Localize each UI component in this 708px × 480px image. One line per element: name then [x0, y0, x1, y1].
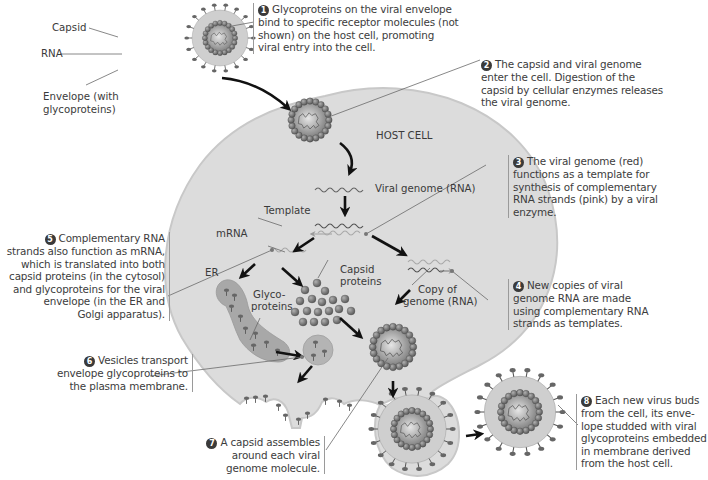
step-number-badge: 1: [258, 5, 269, 16]
step-2-caption: 2The capsid and viral genome enter the c…: [481, 58, 701, 109]
caption-line: A capsid assembles: [220, 436, 320, 448]
caption-line: enter the cell. Digestion of the: [481, 71, 635, 83]
caption-line: using complementary RNA: [513, 305, 648, 317]
step-1-caption: 1Glycoproteins on the viral envelope bin…: [253, 3, 478, 54]
caption-line: shown) on the host cell, promoting: [258, 29, 434, 41]
caption-line: from the host cell.: [581, 457, 673, 469]
capsid-proteins-label-1: Capsid: [340, 264, 374, 276]
rna-label: RNA: [41, 48, 63, 60]
caption-line: the viral genome.: [481, 96, 570, 108]
step-number-badge: 4: [513, 281, 524, 292]
step-number-badge: 8: [581, 396, 592, 407]
caption-line: RNA strands (pink) by a viral: [513, 193, 658, 205]
capsid-label: Capsid: [52, 22, 86, 34]
caption-line: the plasma membrane.: [69, 380, 188, 392]
caption-line: capsid proteins (in the cytosol): [9, 270, 165, 282]
caption-line: envelope glycoproteins to: [57, 367, 188, 379]
caption-line: genome RNA are made: [513, 292, 631, 304]
caption-line: bind to specific receptor molecules (not: [258, 16, 459, 28]
step-number-badge: 6: [84, 356, 95, 367]
step-7-caption: 7A capsid assembles around each viral ge…: [200, 436, 325, 474]
vesicle: [303, 335, 333, 365]
host-cell-label: HOST CELL: [376, 130, 433, 142]
er-label: ER: [205, 267, 219, 279]
caption-line: synthesis of complementary: [513, 181, 657, 193]
caption-line: The capsid and viral genome: [495, 58, 642, 70]
viral-genome-label: Viral genome (RNA): [375, 183, 476, 195]
caption-line: which is translated into both: [21, 258, 165, 270]
glycoproteins-label-1: Glyco-: [253, 289, 285, 301]
caption-line: lope studded with viral: [581, 420, 697, 432]
caption-line: Vesicles transport: [98, 354, 188, 366]
step-number-badge: 7: [206, 438, 217, 449]
glycoproteins-label-2: proteins: [251, 301, 293, 313]
caption-line: functions as a template for: [513, 168, 649, 180]
caption-line: and glycoproteins for the viral: [13, 283, 165, 295]
caption-line: Glycoproteins on the viral envelope: [272, 3, 452, 15]
caption-line: Complementary RNA: [59, 232, 165, 244]
caption-line: glycoproteins embedded: [581, 432, 707, 444]
template-label: Template: [264, 205, 310, 217]
caption-line: genome molecule.: [226, 462, 320, 474]
virion-released: [474, 368, 565, 456]
step-number-badge: 5: [45, 234, 56, 245]
virion-extracellular: [184, 4, 255, 73]
caption-line: The viral genome (red): [527, 155, 643, 167]
caption-line: Golgi apparatus).: [77, 308, 165, 320]
caption-line: from the cell, its enve-: [581, 407, 695, 419]
caption-line: strands as templates.: [513, 317, 623, 329]
copy-of-genome-label-2: genome (RNA): [403, 296, 477, 308]
caption-line: enzyme.: [513, 206, 556, 218]
envelope-label-2: glycoproteins): [43, 104, 116, 116]
step-number-badge: 3: [513, 157, 524, 168]
step-3-caption: 3The viral genome (red) functions as a t…: [508, 155, 703, 218]
caption-line: in membrane derived: [581, 445, 690, 457]
envelope-label-1: Envelope (with: [43, 91, 119, 103]
step-6-caption: 6Vesicles transport envelope glycoprotei…: [30, 354, 193, 392]
mrna-label: mRNA: [216, 228, 248, 240]
caption-line: Each new virus buds: [595, 394, 699, 406]
copy-of-genome-label-1: Copy of: [418, 284, 457, 296]
caption-line: strands also function as mRNA,: [7, 245, 165, 257]
caption-line: viral entry into the cell.: [258, 41, 376, 53]
step-4-caption: 4New copies of viral genome RNA are made…: [508, 279, 703, 330]
caption-line: around each viral: [232, 449, 320, 461]
step-5-caption: 5Complementary RNA strands also function…: [2, 232, 170, 321]
step-8-caption: 8Each new virus buds from the cell, its …: [576, 394, 708, 470]
step-number-badge: 2: [481, 60, 492, 71]
caption-line: envelope (in the ER and: [44, 295, 165, 307]
caption-line: New copies of viral: [527, 279, 623, 291]
capsid-proteins-label-2: proteins: [340, 276, 382, 288]
caption-line: capsid by cellular enzymes releases: [481, 84, 663, 96]
